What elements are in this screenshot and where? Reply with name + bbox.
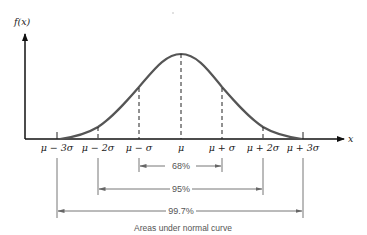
tick-mu-plus-3sigma: μ + 3σ xyxy=(287,142,320,153)
range-68-label: 68% xyxy=(172,161,190,171)
x-tick-labels: μ − 3σ μ − 2σ μ − σ μ μ + σ μ + 2σ μ + 3… xyxy=(41,142,320,153)
tick-mu-minus-3sigma: μ − 3σ xyxy=(41,142,74,153)
tick-mu-plus-2sigma: μ + 2σ xyxy=(247,142,280,153)
tick-mu-minus-sigma: μ − σ xyxy=(126,142,153,153)
sigma-dashed-lines xyxy=(98,54,263,139)
tick-mu-plus-sigma: μ + σ xyxy=(209,142,236,153)
y-axis-label: f(x) xyxy=(13,16,31,27)
tick-mu-minus-2sigma: μ − 2σ xyxy=(82,142,115,153)
normal-curve-diagram: f(x) x μ − 3σ μ − 2σ μ − σ μ μ + σ μ + 2… xyxy=(0,0,367,235)
x-axis-label: x xyxy=(348,133,354,144)
caption: Areas under normal curve xyxy=(134,223,232,233)
speck xyxy=(172,12,174,14)
range-95-label: 95% xyxy=(172,184,190,194)
range-99-7-label: 99.7% xyxy=(168,206,194,216)
tick-mu: μ xyxy=(178,142,184,153)
three-sigma-ticks xyxy=(57,132,303,139)
